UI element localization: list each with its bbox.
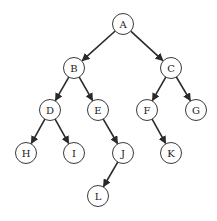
nodes-layer: ABCDEFGHIJKL — [16, 14, 207, 207]
edge-b-d — [55, 77, 68, 100]
node-label: L — [95, 191, 102, 202]
node-label: I — [72, 148, 76, 159]
tree-node-a: A — [113, 14, 134, 35]
tree-node-e: E — [88, 100, 109, 121]
node-label: B — [70, 63, 77, 74]
edge-c-f — [152, 77, 165, 100]
tree-node-k: K — [161, 143, 182, 164]
node-label: J — [120, 148, 125, 159]
edge-c-g — [176, 77, 190, 101]
node-label: A — [118, 19, 127, 30]
node-label: H — [22, 148, 31, 159]
tree-node-d: D — [40, 100, 61, 121]
node-label: D — [46, 105, 54, 116]
edge-b-e — [79, 77, 92, 100]
tree-node-h: H — [16, 143, 37, 164]
tree-node-f: F — [137, 100, 158, 121]
node-label: F — [144, 105, 151, 116]
node-label: K — [167, 148, 175, 159]
tree-node-c: C — [161, 58, 182, 79]
edge-e-j — [103, 119, 117, 143]
edge-f-k — [152, 119, 166, 143]
edge-a-b — [82, 31, 115, 61]
node-label: G — [192, 105, 200, 116]
edge-a-c — [131, 31, 163, 60]
tree-node-g: G — [186, 100, 207, 121]
tree-node-i: I — [64, 143, 85, 164]
node-label: E — [94, 105, 101, 116]
tree-node-b: B — [64, 58, 85, 79]
tree-node-l: L — [88, 186, 109, 207]
tree-node-j: J — [113, 143, 134, 164]
binary-tree-diagram: ABCDEFGHIJKL — [0, 0, 217, 221]
edge-d-i — [55, 119, 69, 143]
edge-j-l — [104, 162, 118, 186]
edge-d-h — [31, 119, 45, 143]
node-label: C — [167, 63, 175, 74]
